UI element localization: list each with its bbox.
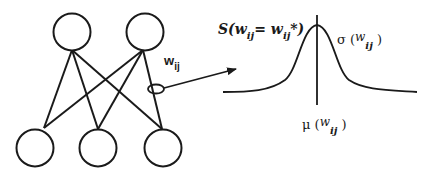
sigma-label-suffix: ) (377, 32, 382, 47)
top-node-1 (54, 14, 91, 51)
distribution-label-prefix: S(w (218, 21, 247, 37)
bottom-node-1 (17, 130, 54, 167)
weight-highlight-ellipse (148, 85, 164, 94)
distribution-label-sub1: ij (247, 30, 254, 41)
connection-t2-b2 (98, 50, 143, 129)
mu-label-suffix: ) (342, 117, 347, 132)
weight-label-w: w (164, 53, 174, 68)
mu-label-sub: ij (330, 125, 337, 136)
mu-label-w: w (320, 115, 330, 129)
top-node-2 (127, 14, 164, 51)
connection-t2-b3 (143, 50, 162, 129)
mu-label-prefix: μ ( (302, 117, 320, 132)
weight-label-subscript: ij (174, 61, 180, 72)
mu-label: μ (wij ) (302, 118, 347, 131)
sigma-label-w: w (355, 30, 365, 44)
distribution-label-suffix: *) (290, 21, 304, 37)
sigma-label-sub: ij (365, 40, 372, 51)
weight-label: wij (164, 54, 180, 67)
diagram-canvas (0, 0, 433, 176)
distribution-label-mid: = w (254, 21, 283, 37)
distribution-label-sub2: ij (283, 30, 290, 41)
distribution-label: S(wij= wij*) (218, 22, 304, 36)
sigma-label: σ (wij ) (337, 33, 382, 46)
bottom-node-3 (145, 130, 182, 167)
bottom-node-2 (80, 130, 117, 167)
sigma-label-prefix: σ ( (337, 32, 355, 47)
